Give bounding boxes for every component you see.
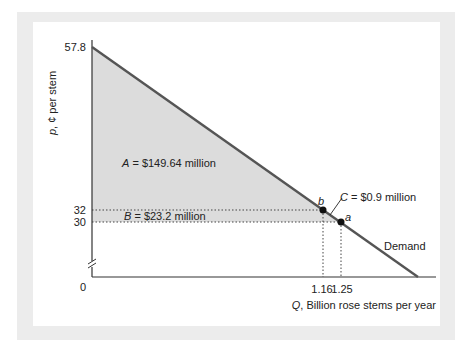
x-tick-0: 0 — [80, 281, 86, 293]
demand-label: Demand — [384, 240, 426, 252]
y-axis-label: p, ¢ per stem — [46, 71, 58, 136]
point-a — [338, 219, 345, 226]
point-b-label: b — [318, 195, 324, 207]
area-c-label: C = $0.9 million — [340, 191, 416, 203]
y-tick-32: 32 — [74, 204, 86, 216]
point-a-label: a — [345, 211, 351, 223]
demand-chart: 57.8 32 30 0 1.16 1.25 p, ¢ per stem Q, … — [0, 0, 468, 342]
y-tick-57-8: 57.8 — [65, 41, 86, 53]
area-a-label: A = $149.64 million — [121, 157, 216, 169]
x-tick-1-16: 1.16 — [311, 283, 332, 295]
point-b — [320, 207, 327, 214]
x-tick-1-25: 1.25 — [331, 283, 352, 295]
y-tick-30: 30 — [74, 216, 86, 228]
x-axis-label: Q, Billion rose stems per year — [292, 299, 437, 311]
area-b-label: B = $23.2 million — [124, 210, 206, 222]
